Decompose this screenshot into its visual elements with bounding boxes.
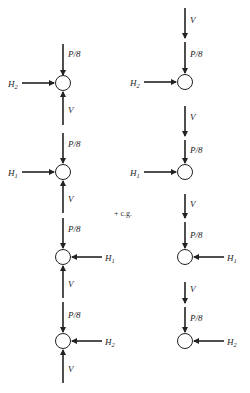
- load-label: P/8: [189, 313, 203, 323]
- node-circle: [56, 76, 71, 91]
- node-circle: [56, 334, 71, 349]
- shear-label: V: [190, 284, 197, 294]
- left-node-1: [22, 44, 71, 125]
- right-node-1: [144, 8, 193, 90]
- load-label: P/8: [67, 310, 81, 320]
- shear-label: V: [190, 112, 197, 122]
- cg-label: + c.g.: [114, 209, 132, 218]
- node-circle: [178, 75, 193, 90]
- h2-label: H2: [129, 78, 141, 89]
- node-circle: [178, 250, 193, 265]
- node-circle: [56, 165, 71, 180]
- h2-label: H2: [104, 337, 116, 348]
- node-circle: [178, 165, 193, 180]
- load-label: P/8: [67, 49, 81, 59]
- h2-label: H2: [7, 79, 19, 90]
- free-body-diagram: P/8 H2 V P/8 H1 V P/8 H1 V P/8 H2 V + c.…: [0, 0, 250, 393]
- shear-label: V: [68, 105, 75, 115]
- load-label: P/8: [189, 230, 203, 240]
- shear-label: V: [68, 364, 75, 374]
- h1-label: H1: [7, 168, 18, 179]
- shear-label: V: [68, 194, 75, 204]
- load-label: P/8: [67, 224, 81, 234]
- h1-label: H1: [104, 253, 115, 264]
- left-node-2: [22, 133, 71, 213]
- shear-label: V: [190, 15, 197, 25]
- node-circle: [56, 250, 71, 265]
- shear-label: V: [190, 199, 197, 209]
- h2-label: H2: [226, 337, 238, 348]
- load-label: P/8: [189, 145, 203, 155]
- h1-label: H1: [129, 168, 140, 179]
- load-label: P/8: [189, 49, 203, 59]
- node-circle: [178, 334, 193, 349]
- shear-label: V: [68, 279, 75, 289]
- h1-label: H1: [226, 253, 237, 264]
- load-label: P/8: [67, 139, 81, 149]
- right-node-2: [144, 106, 193, 180]
